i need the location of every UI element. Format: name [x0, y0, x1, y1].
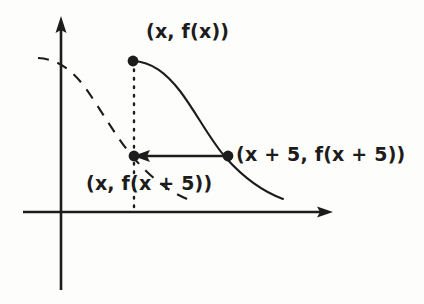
- point-right-label: (x + 5, f(x + 5)): [236, 145, 405, 164]
- point-top-marker: [128, 56, 139, 67]
- point-left-marker: [129, 151, 140, 162]
- point-right-marker: [223, 151, 234, 162]
- point-left-label: (x, f(x + 5)): [86, 174, 212, 193]
- figure-canvas: (x, f(x)) (x + 5, f(x + 5)) (x, f(x + 5)…: [0, 0, 424, 304]
- point-top-label: (x, f(x)): [146, 22, 229, 41]
